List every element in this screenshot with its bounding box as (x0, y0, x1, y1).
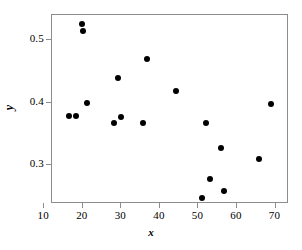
x-tick (120, 203, 121, 208)
data-point (115, 75, 121, 81)
data-point (111, 120, 117, 126)
x-tick-label: 60 (216, 209, 256, 222)
y-axis-label: y (2, 101, 17, 115)
data-point (218, 145, 224, 151)
plot-panel (51, 14, 288, 203)
x-tick (275, 203, 276, 208)
y-tick (46, 164, 51, 165)
data-point (118, 114, 124, 120)
y-tick (46, 102, 51, 103)
x-tick-label: 30 (100, 209, 140, 222)
x-tick-label: 10 (23, 209, 63, 222)
data-point (140, 120, 146, 126)
data-point (66, 113, 72, 119)
y-tick-label: 0.3 (6, 157, 44, 170)
x-tick-label: 40 (139, 209, 179, 222)
x-axis-label: x (0, 226, 302, 238)
data-point (207, 176, 213, 182)
data-point (80, 28, 86, 34)
y-tick (46, 39, 51, 40)
data-point (268, 101, 274, 107)
x-tick-label: 70 (255, 209, 295, 222)
data-point (173, 88, 179, 94)
data-point (199, 195, 205, 201)
data-points-layer (52, 15, 287, 202)
data-point (203, 120, 209, 126)
x-tick (159, 203, 160, 208)
x-tick (236, 203, 237, 208)
x-tick-label: 20 (62, 209, 102, 222)
x-tick (197, 203, 198, 208)
data-point (84, 100, 90, 106)
x-tick (82, 203, 83, 208)
x-tick (43, 203, 44, 208)
data-point (79, 21, 85, 27)
y-tick-label: 0.5 (6, 32, 44, 45)
data-point (73, 113, 79, 119)
data-point (256, 156, 262, 162)
scatter-plot-figure: 10203040506070 0.30.40.5 x y (0, 0, 302, 250)
data-point (221, 188, 227, 194)
x-tick-label: 50 (177, 209, 217, 222)
data-point (144, 56, 150, 62)
